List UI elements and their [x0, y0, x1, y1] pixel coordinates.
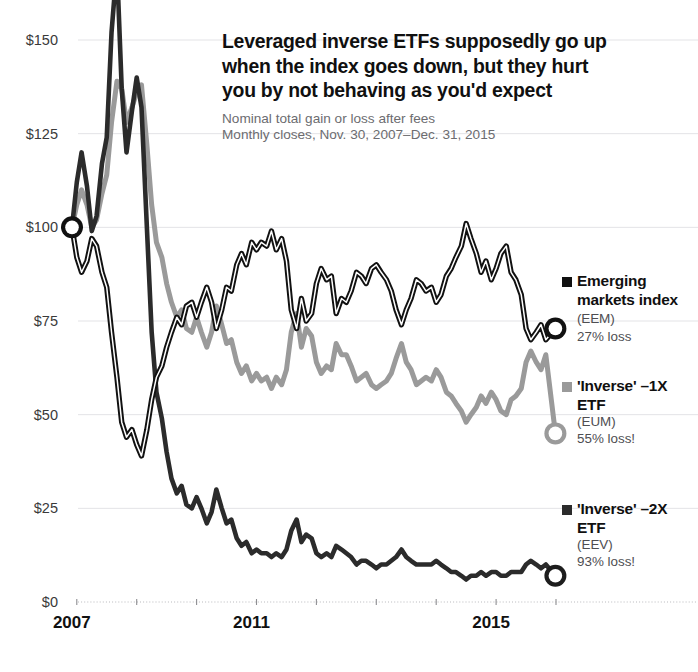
x-tick-label-2011: 2011: [233, 613, 270, 632]
legend-item-eev: 'Inverse' –2X ETF (EEV) 93% loss!: [562, 500, 698, 570]
legend-swatch-eev-icon: [562, 505, 572, 515]
legend-name-eem: Emerging markets index: [577, 272, 678, 308]
x-axis-tick-labels: 200720112015: [53, 613, 510, 632]
legend-ticker-eev: (EEV): [577, 537, 698, 553]
legend-ticker-eum: (EUM): [577, 414, 698, 430]
chart-page: $0$25$50$75$100$125$150 200720112015 Lev…: [0, 0, 698, 672]
page-title: Leveraged inverse ETFs supposedly go up …: [222, 29, 622, 103]
headline-block: Leveraged inverse ETFs supposedly go up …: [222, 29, 622, 144]
legend-note-eev: 93% loss!: [577, 554, 698, 570]
y-axis-tick-labels: $0$25$50$75$100$125$150: [26, 32, 58, 610]
y-tick-label-75: $75: [34, 313, 58, 329]
legend-swatch-eem-icon: [562, 277, 572, 287]
legend-note-eem: 27% loss: [577, 329, 698, 345]
x-tick-label-2015: 2015: [472, 613, 510, 632]
y-tick-label-25: $25: [34, 500, 58, 516]
end-marker-eem-center: [549, 322, 563, 336]
legend-title-eum: 'Inverse' –1X ETF: [577, 377, 698, 414]
end-marker-eum-center: [549, 427, 563, 441]
legend-swatch-eum-icon: [562, 382, 572, 392]
y-tick-label-150: $150: [26, 32, 58, 48]
y-tick-label-125: $125: [26, 126, 58, 142]
x-tick-label-2007: 2007: [53, 613, 91, 632]
legend-title-eem: Emerging markets index (EEM): [577, 272, 698, 329]
legend-name-eum: 'Inverse' –1X ETF: [577, 377, 667, 413]
end-marker-eev-center: [549, 569, 563, 583]
legend-ticker-eem: (EEM): [577, 311, 615, 326]
legend-item-eem: Emerging markets index (EEM) 27% loss: [562, 272, 698, 345]
y-tick-label-50: $50: [34, 407, 58, 423]
chart-subtitle: Nominal total gain or loss after fees Mo…: [222, 111, 622, 144]
subtitle-line-2: Monthly closes, Nov. 30, 2007–Dec. 31, 2…: [222, 127, 622, 144]
legend-item-eum: 'Inverse' –1X ETF (EUM) 55% loss!: [562, 377, 698, 447]
y-tick-label-0: $0: [42, 594, 58, 610]
legend-note-eum: 55% loss!: [577, 431, 698, 447]
y-tick-label-100: $100: [26, 219, 58, 235]
start-marker-center: [65, 221, 79, 235]
legend-title-eev: 'Inverse' –2X ETF: [577, 500, 698, 537]
legend-name-eev: 'Inverse' –2X ETF: [577, 500, 667, 536]
subtitle-line-1: Nominal total gain or loss after fees: [222, 111, 622, 128]
